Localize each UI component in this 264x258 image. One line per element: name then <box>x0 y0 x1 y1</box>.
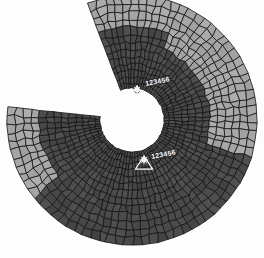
mesh-element <box>76 117 83 122</box>
mesh-element <box>187 125 194 130</box>
mesh-canvas[interactable] <box>0 0 264 258</box>
mesh-element <box>115 12 123 21</box>
mesh-element <box>139 4 147 11</box>
mesh-element <box>103 218 111 227</box>
mesh-element <box>54 117 62 123</box>
mesh-element <box>23 108 32 118</box>
mesh-elements-group <box>7 0 257 245</box>
mesh-element <box>107 5 115 13</box>
mesh-element <box>195 108 203 114</box>
mesh-element <box>149 233 158 244</box>
mesh-element <box>119 183 124 189</box>
mesh-element <box>128 168 133 177</box>
mesh-element <box>247 123 257 131</box>
mesh-element <box>141 182 147 189</box>
mesh-element <box>188 117 196 121</box>
mesh-element <box>75 125 83 130</box>
mesh-element <box>7 114 16 124</box>
mesh-element <box>140 221 149 230</box>
mesh-element <box>133 236 143 245</box>
mesh-element <box>136 169 140 177</box>
mesh-element <box>234 83 246 91</box>
mesh-element <box>31 109 39 117</box>
mesh-element <box>91 230 101 241</box>
mesh-element <box>155 217 163 225</box>
mesh-element <box>118 212 127 222</box>
mesh-element <box>131 0 140 4</box>
fea-mesh-viewport[interactable]: 123456 123456 <box>0 0 264 258</box>
mesh-element <box>115 197 121 204</box>
mesh-element <box>31 117 39 123</box>
mesh-element <box>76 114 83 118</box>
mesh-element <box>123 26 131 37</box>
mesh-element <box>115 5 123 13</box>
mesh-element <box>182 110 188 114</box>
mesh-element <box>54 112 62 118</box>
mesh-element <box>7 124 16 134</box>
